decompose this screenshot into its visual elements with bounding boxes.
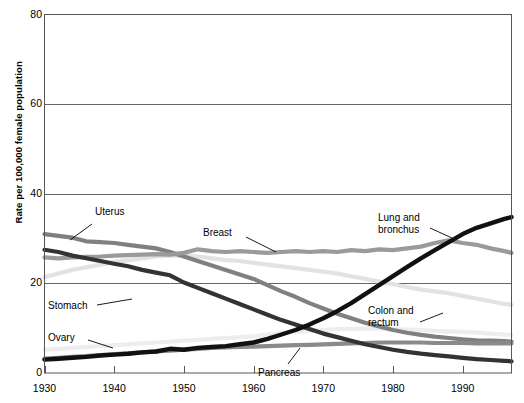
annotation-label-breast: Breast xyxy=(203,227,232,239)
plot-canvas xyxy=(0,0,524,403)
annotation-label-ovary: Ovary xyxy=(48,332,75,344)
annotation-label-colon-and-rectum: Colon andrectum xyxy=(368,305,414,328)
leader-line-pancreas xyxy=(288,348,300,364)
data-series-lines xyxy=(45,217,512,361)
cancer-death-rate-chart: Rate per 100,000 female population 02040… xyxy=(0,0,524,403)
leader-line-lung-and-bronchus xyxy=(430,228,452,238)
leader-line-stomach xyxy=(97,299,132,305)
annotation-label-uterus: Uterus xyxy=(95,206,124,218)
leader-line-colon-and-rectum xyxy=(420,313,443,322)
annotation-label-pancreas: Pancreas xyxy=(258,367,300,379)
annotation-label-lung-and-bronchus: Lung andbronchus xyxy=(378,212,420,235)
leader-line-uterus xyxy=(70,224,92,240)
annotation-label-stomach: Stomach xyxy=(48,300,87,312)
